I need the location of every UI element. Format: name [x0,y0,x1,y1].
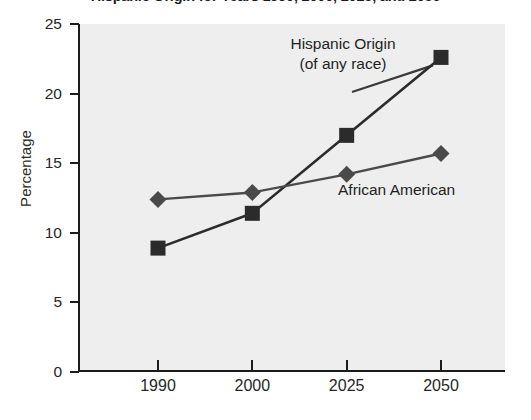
data-point-marker [433,145,450,162]
data-point-marker [245,206,260,221]
chart-figure: Hispanic Origin for Years 1990, 2000, 20… [0,0,531,420]
data-point-marker [150,191,167,208]
series-line-hispanic [158,57,441,248]
data-point-marker [339,128,354,143]
hispanic-label-line1: Hispanic Origin [290,35,395,52]
data-point-marker [434,50,449,65]
data-point-marker [151,241,166,256]
series-label-hispanic: Hispanic Origin (of any race) [258,34,428,74]
data-point-marker [244,184,261,201]
series-label-african-american: African American [338,180,455,200]
hispanic-label-line2: (of any race) [299,55,386,72]
